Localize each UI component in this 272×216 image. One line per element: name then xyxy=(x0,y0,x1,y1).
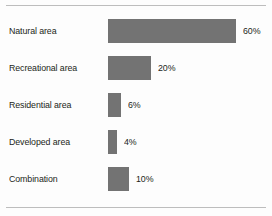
bar-developed-area xyxy=(108,130,117,154)
table-row: Combination 10% xyxy=(0,160,272,197)
bar-natural-area xyxy=(108,19,236,43)
bar-residential-area xyxy=(108,93,121,117)
table-row: Residential area 6% xyxy=(0,86,272,123)
bar-group: 60% xyxy=(108,12,262,49)
bar-value-label: 6% xyxy=(128,99,141,110)
category-label: Recreational area xyxy=(9,49,98,86)
bar-value-label: 10% xyxy=(136,173,153,184)
table-row: Natural area 60% xyxy=(0,12,272,49)
category-label: Natural area xyxy=(9,12,98,49)
bar-value-label: 4% xyxy=(124,136,137,147)
bar-recreational-area xyxy=(108,56,151,80)
bar-group: 10% xyxy=(108,160,155,197)
category-label: Developed area xyxy=(9,123,98,160)
horizontal-bar-chart: Natural area 60% Recreational area 20% R… xyxy=(0,0,272,216)
bar-group: 6% xyxy=(108,86,142,123)
category-label: Residential area xyxy=(9,86,98,123)
category-label: Combination xyxy=(9,160,98,197)
bar-group: 4% xyxy=(108,123,138,160)
bottom-divider-rule xyxy=(6,207,266,208)
bar-value-label: 20% xyxy=(158,62,175,73)
bar-group: 20% xyxy=(108,49,177,86)
bar-combination xyxy=(108,167,129,191)
table-row: Developed area 4% xyxy=(0,123,272,160)
chart-plot-area: Natural area 60% Recreational area 20% R… xyxy=(0,12,272,204)
top-divider-rule xyxy=(6,5,266,6)
table-row: Recreational area 20% xyxy=(0,49,272,86)
bar-value-label: 60% xyxy=(243,25,260,36)
